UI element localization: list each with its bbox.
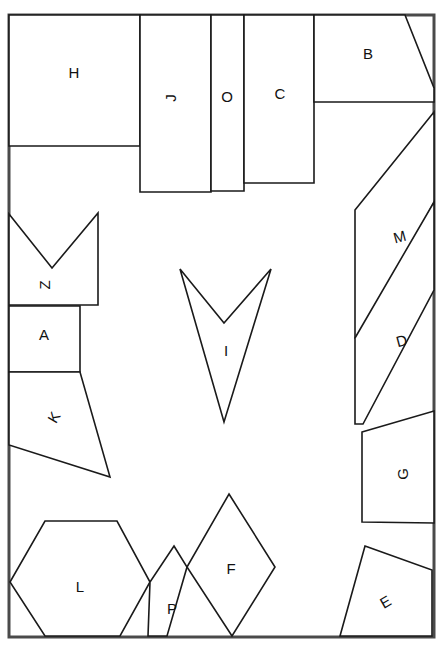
region-h[interactable] bbox=[9, 15, 140, 146]
region-l[interactable] bbox=[10, 521, 150, 636]
region-k[interactable] bbox=[9, 372, 110, 477]
region-p[interactable] bbox=[148, 546, 187, 636]
region-g[interactable] bbox=[362, 411, 434, 523]
region-b[interactable] bbox=[314, 15, 434, 102]
region-c[interactable] bbox=[244, 15, 314, 183]
region-i[interactable] bbox=[180, 269, 271, 422]
region-group bbox=[9, 15, 434, 636]
region-e[interactable] bbox=[340, 546, 432, 636]
polygon-partition-figure: HJOCBZAKIMDGELPF bbox=[0, 0, 443, 645]
shape-canvas: HJOCBZAKIMDGELPF bbox=[0, 0, 443, 645]
region-j[interactable] bbox=[140, 15, 211, 192]
region-o[interactable] bbox=[211, 15, 244, 191]
region-z[interactable] bbox=[9, 213, 98, 305]
region-f[interactable] bbox=[187, 494, 275, 636]
region-a[interactable] bbox=[9, 306, 80, 372]
